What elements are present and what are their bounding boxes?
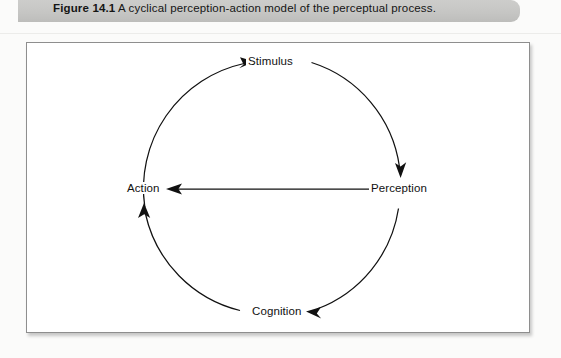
figure-caption-number: Figure 14.1 (53, 2, 115, 14)
page-rule-line (0, 33, 561, 34)
node-label-cognition: Cognition (250, 305, 304, 317)
node-label-perception: Perception (369, 182, 429, 194)
cycle-diagram (26, 42, 530, 333)
arrowhead-into-action-arc (138, 203, 150, 218)
arrowhead-into-cognition (306, 307, 321, 319)
arc-stimulus-to-perception (312, 63, 400, 168)
arrowhead-into-perception (395, 162, 406, 178)
figure-caption-bar: Figure 14.1 A cyclical perception-action… (18, 0, 520, 22)
node-label-stimulus: Stimulus (246, 55, 295, 67)
figure-caption-title: A cyclical perception-action model of th… (115, 2, 436, 14)
arc-cognition-to-action (146, 214, 241, 311)
node-label-action: Action (125, 182, 162, 194)
figure-caption-text: Figure 14.1 A cyclical perception-action… (53, 2, 436, 14)
arc-perception-to-cognition (317, 209, 399, 310)
